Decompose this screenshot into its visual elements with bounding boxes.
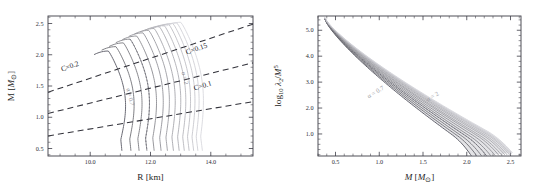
- y-ticklabel: 2.0: [306, 104, 314, 111]
- y-ticklabel: 1.0: [306, 130, 314, 137]
- x-axis-label: M [M⊙]: [404, 172, 435, 183]
- plot-area: 10.012.014.00.51.01.52.02.5C=0.2C=0.15C=…: [36, 16, 253, 165]
- x-ticklabel: 1.0: [375, 158, 383, 165]
- x-ticklabel: 1.5: [419, 158, 427, 165]
- y-ticklabel: 2.0: [36, 51, 44, 58]
- alpha-annotation: α = 0.7: [125, 87, 136, 106]
- y-axis-label: log10 λ2/M5: [272, 65, 283, 107]
- alpha-annotation: α = 2: [181, 71, 191, 85]
- x-ticklabel: 14.0: [205, 158, 216, 165]
- y-ticklabel: 1.0: [36, 113, 44, 120]
- y-ticklabel: 0.5: [36, 145, 44, 152]
- x-ticklabel: 10.0: [85, 158, 96, 165]
- compactness-line: [48, 102, 253, 136]
- alpha-annotation: α = 0.7: [366, 84, 386, 100]
- compactness-line: [48, 63, 253, 114]
- tidal-deformability-plot: 0.51.01.52.02.51.02.03.04.05.0α = 0.7α =…: [266, 0, 533, 193]
- axis-frame: [48, 16, 253, 156]
- mr-curve-family: [94, 22, 203, 150]
- y-ticklabel: 4.0: [306, 52, 314, 59]
- mass-radius-plot: 10.012.014.00.51.01.52.02.5C=0.2C=0.15C=…: [0, 0, 267, 193]
- figure-container: 10.012.014.00.51.01.52.02.5C=0.2C=0.15C=…: [0, 0, 533, 193]
- x-axis-label: R [km]: [137, 172, 163, 182]
- lambda-curve-family: [325, 18, 512, 159]
- compactness-label: C=0.2: [60, 59, 81, 74]
- compactness-label: C=0.15: [185, 41, 209, 57]
- compactness-line: [48, 24, 253, 92]
- plot-area: 0.51.01.52.02.51.02.03.04.05.0α = 0.7α =…: [306, 16, 521, 165]
- x-ticklabel: 0.5: [332, 158, 340, 165]
- y-ticklabel: 5.0: [306, 26, 314, 33]
- y-ticklabel: 2.5: [36, 20, 44, 27]
- mr-curve: [110, 43, 143, 151]
- tidal-deformability-panel: 0.51.01.52.02.51.02.03.04.05.0α = 0.7α =…: [266, 0, 533, 193]
- x-ticklabel: 2.5: [507, 158, 515, 165]
- y-ticklabel: 1.5: [36, 82, 44, 89]
- mass-radius-panel: 10.012.014.00.51.01.52.02.5C=0.2C=0.15C=…: [0, 0, 267, 193]
- y-axis-label: M [M⊙]: [6, 71, 17, 101]
- y-ticklabel: 3.0: [306, 78, 314, 85]
- x-ticklabel: 2.0: [463, 158, 471, 165]
- x-ticklabel: 12.0: [145, 158, 156, 165]
